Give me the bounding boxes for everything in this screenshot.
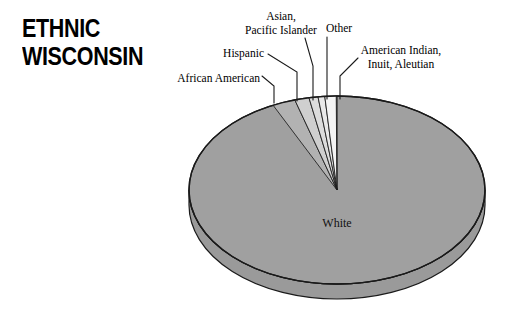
pie-label-african-american: African American xyxy=(160,72,260,86)
pie-label-hispanic: Hispanic xyxy=(196,47,264,61)
pie-label-white: White xyxy=(300,216,374,231)
pie-label-american-indian: American Indian, Inuit, Aleutian xyxy=(340,44,462,71)
chart-canvas: ETHNIC WISCONSIN xyxy=(0,0,510,325)
pie-label-asian-pacific-islander: Asian, Pacific Islander xyxy=(238,10,324,37)
leader-line-african-american xyxy=(262,76,274,103)
leader-line-hispanic xyxy=(268,54,297,101)
leader-line-asian-pacific-islander xyxy=(305,38,313,100)
pie-label-other: Other xyxy=(318,22,360,36)
